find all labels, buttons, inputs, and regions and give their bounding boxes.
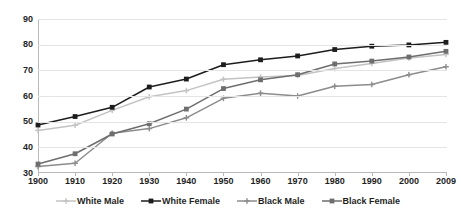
x-axis-tick-label: 1960 — [241, 176, 281, 186]
y-axis: 30405060708090 — [0, 19, 33, 173]
legend-swatch-cross-icon — [56, 196, 76, 206]
x-axis-tick-label: 1900 — [18, 176, 58, 186]
gridline — [38, 122, 447, 123]
data-point-marker — [36, 123, 41, 128]
y-axis-tick-label: 70 — [3, 66, 33, 75]
data-point-marker — [443, 64, 449, 70]
x-axis-tick-label: 1930 — [129, 176, 169, 186]
legend-swatch-cross-icon — [237, 196, 257, 206]
x-axis: 1900191019201930194019501960197019801990… — [38, 176, 447, 189]
legend-item-black-female[interactable]: Black Female — [322, 196, 401, 206]
data-point-marker — [258, 57, 263, 62]
data-point-marker — [184, 88, 190, 94]
data-point-marker — [36, 162, 41, 167]
legend-item-label: White Male — [77, 196, 124, 206]
legend-item-white-male[interactable]: White Male — [56, 196, 124, 206]
data-point-marker — [147, 85, 152, 90]
plot-area — [38, 19, 447, 173]
x-axis-tick-label: 1970 — [278, 176, 318, 186]
data-point-marker — [184, 77, 189, 82]
gridline — [38, 70, 447, 71]
legend-item-white-female[interactable]: White Female — [141, 196, 220, 206]
x-axis-tick-label: 2009 — [426, 176, 461, 186]
data-point-marker — [369, 59, 374, 64]
data-point-marker — [184, 107, 189, 112]
data-point-marker — [73, 151, 78, 156]
gridline — [38, 19, 447, 20]
legend-swatch-square-icon — [322, 196, 342, 206]
x-axis-tick-label: 1940 — [166, 176, 206, 186]
x-axis-tick-label: 1990 — [352, 176, 392, 186]
x-axis-tick-label: 1980 — [315, 176, 355, 186]
data-point-marker — [332, 83, 338, 89]
legend-item-label: White Female — [162, 196, 220, 206]
data-point-marker — [73, 114, 78, 119]
data-point-marker — [329, 199, 334, 204]
x-axis-tick-label: 1910 — [55, 176, 95, 186]
data-point-marker — [244, 198, 250, 204]
data-point-marker — [258, 77, 263, 82]
x-axis-tick-label: 2000 — [389, 176, 429, 186]
series-line — [38, 54, 446, 130]
y-axis-tick-label: 60 — [3, 92, 33, 101]
y-axis-tick-label: 50 — [3, 117, 33, 126]
chart-legend: White MaleWhite FemaleBlack MaleBlack Fe… — [0, 193, 456, 209]
x-axis-tick-label: 1950 — [203, 176, 243, 186]
data-point-marker — [444, 49, 449, 54]
gridline — [38, 96, 447, 97]
y-axis-tick-label: 90 — [3, 15, 33, 24]
series-line — [38, 67, 446, 167]
legend-item-label: Black Male — [258, 196, 305, 206]
data-point-marker — [369, 82, 375, 88]
data-point-marker — [332, 62, 337, 67]
data-point-marker — [406, 72, 412, 78]
data-point-marker — [221, 77, 227, 83]
data-point-marker — [63, 198, 69, 204]
data-point-marker — [295, 54, 300, 59]
data-point-marker — [221, 62, 226, 67]
x-axis-tick-label: 1920 — [92, 176, 132, 186]
gridline — [38, 147, 447, 148]
data-point-marker — [110, 132, 115, 137]
data-point-marker — [332, 47, 337, 52]
data-point-marker — [110, 105, 115, 110]
data-point-marker — [35, 128, 41, 134]
legend-item-black-male[interactable]: Black Male — [237, 196, 305, 206]
legend-swatch-square-icon — [141, 196, 161, 206]
series-black-female — [36, 49, 449, 166]
data-point-marker — [221, 86, 226, 91]
data-point-marker — [146, 126, 152, 132]
data-point-marker — [184, 115, 190, 121]
y-axis-tick-label: 40 — [3, 143, 33, 152]
y-axis-tick-label: 80 — [3, 40, 33, 49]
data-point-marker — [149, 199, 154, 204]
data-point-marker — [295, 72, 300, 77]
gridline — [38, 45, 447, 46]
legend-item-label: Black Female — [343, 196, 401, 206]
data-point-marker — [407, 55, 412, 60]
data-point-marker — [72, 122, 78, 128]
